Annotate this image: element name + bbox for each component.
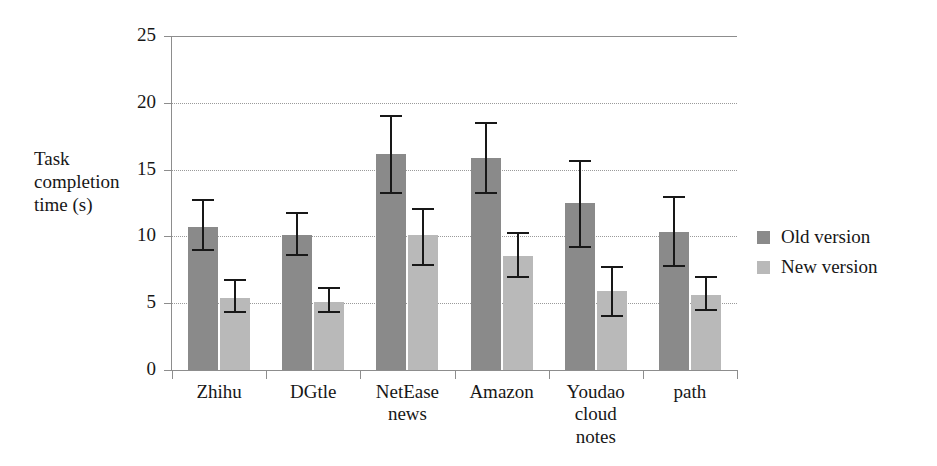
y-tick-15 — [164, 170, 172, 171]
error-bar — [691, 276, 721, 311]
error-bar — [220, 279, 250, 312]
y-tick-20 — [164, 103, 172, 104]
error-bar-cap-bottom — [569, 246, 591, 248]
error-bar-stem — [234, 279, 236, 312]
x-tick-5 — [643, 370, 644, 379]
error-bar — [471, 122, 501, 194]
y-tick-label-15: 15 — [112, 158, 156, 180]
error-bar-cap-top — [507, 232, 529, 234]
x-axis-label-word: news — [360, 403, 454, 425]
error-bar-stem — [673, 196, 675, 267]
legend-label: Old version — [781, 226, 870, 248]
gridline-10 — [172, 236, 737, 237]
x-axis-label-word: Youdao — [549, 381, 643, 403]
gridline-5 — [172, 303, 737, 304]
y-tick-0 — [164, 370, 172, 371]
x-axis-label-netease-news: NetEasenews — [360, 381, 454, 426]
bar-chart-figure: Task completion time (s) 0510152025 Zhih… — [0, 0, 937, 466]
error-bar — [376, 115, 406, 194]
y-axis-title-line-3: time (s) — [34, 193, 146, 216]
x-axis-label-word: Amazon — [455, 381, 549, 403]
x-tick-2 — [360, 370, 361, 379]
error-bar — [314, 287, 344, 312]
x-tick-3 — [455, 370, 456, 379]
x-axis-label-word: NetEase — [360, 381, 454, 403]
y-tick-label-5: 5 — [112, 291, 156, 313]
error-bar-cap-top — [380, 115, 402, 117]
error-bar-cap-bottom — [380, 192, 402, 194]
x-axis-label-zhihu: Zhihu — [172, 381, 266, 403]
error-bar — [188, 199, 218, 251]
error-bar-stem — [517, 232, 519, 277]
error-bar — [659, 196, 689, 267]
error-bar-cap-bottom — [224, 311, 246, 313]
y-tick-label-25: 25 — [112, 24, 156, 46]
error-bar-stem — [611, 266, 613, 317]
error-bar-stem — [422, 208, 424, 265]
error-bar — [597, 266, 627, 317]
gridline-15 — [172, 170, 737, 171]
x-tick-6 — [737, 370, 738, 379]
error-bar-stem — [296, 212, 298, 256]
error-bar — [282, 212, 312, 256]
x-axis-label-amazon: Amazon — [455, 381, 549, 403]
error-bar-stem — [485, 122, 487, 194]
y-tick-label-20: 20 — [112, 91, 156, 113]
error-bar-cap-top — [601, 266, 623, 268]
error-bar-cap-bottom — [663, 265, 685, 267]
legend-item-old-version[interactable]: Old version — [757, 222, 878, 252]
chart-legend: Old versionNew version — [757, 222, 878, 282]
error-bar-cap-bottom — [475, 192, 497, 194]
error-bar-cap-bottom — [412, 264, 434, 266]
y-tick-5 — [164, 303, 172, 304]
error-bar-stem — [328, 287, 330, 312]
legend-swatch — [757, 261, 770, 274]
error-bar-stem — [202, 199, 204, 251]
gridline-25 — [172, 36, 737, 37]
x-axis-label-word: Zhihu — [172, 381, 266, 403]
y-tick-label-0: 0 — [112, 358, 156, 380]
error-bar-cap-bottom — [286, 254, 308, 256]
legend-item-new-version[interactable]: New version — [757, 252, 878, 282]
error-bar-cap-top — [569, 160, 591, 162]
error-bar-cap-bottom — [601, 315, 623, 317]
x-tick-1 — [266, 370, 267, 379]
error-bar-cap-top — [412, 208, 434, 210]
x-axis-label-youdao-cloud-notes: Youdaocloudnotes — [549, 381, 643, 448]
error-bar-cap-top — [318, 287, 340, 289]
error-bar — [565, 160, 595, 248]
error-bar — [503, 232, 533, 277]
error-bar-cap-bottom — [507, 276, 529, 278]
gridline-20 — [172, 103, 737, 104]
error-bar-cap-top — [286, 212, 308, 214]
error-bar-cap-bottom — [318, 311, 340, 313]
y-tick-label-10: 10 — [112, 224, 156, 246]
error-bar-stem — [705, 276, 707, 311]
plot-area — [172, 36, 737, 370]
x-tick-0 — [172, 370, 173, 379]
x-axis-label-word: notes — [549, 426, 643, 448]
error-bar — [408, 208, 438, 265]
x-axis-label-path: path — [643, 381, 737, 403]
error-bar-cap-top — [695, 276, 717, 278]
error-bar-stem — [579, 160, 581, 248]
error-bar-cap-bottom — [192, 249, 214, 251]
x-axis-label-word: DGtle — [266, 381, 360, 403]
x-axis-label-word: path — [643, 381, 737, 403]
error-bar-cap-top — [192, 199, 214, 201]
error-bar-cap-top — [475, 122, 497, 124]
legend-label: New version — [781, 256, 878, 278]
y-tick-25 — [164, 36, 172, 37]
error-bar-cap-top — [663, 196, 685, 198]
x-tick-4 — [549, 370, 550, 379]
legend-swatch — [757, 231, 770, 244]
error-bar-cap-bottom — [695, 309, 717, 311]
x-axis-label-word: cloud — [549, 403, 643, 425]
y-tick-10 — [164, 236, 172, 237]
error-bar-stem — [390, 115, 392, 194]
error-bar-cap-top — [224, 279, 246, 281]
x-axis-label-dgtle: DGtle — [266, 381, 360, 403]
